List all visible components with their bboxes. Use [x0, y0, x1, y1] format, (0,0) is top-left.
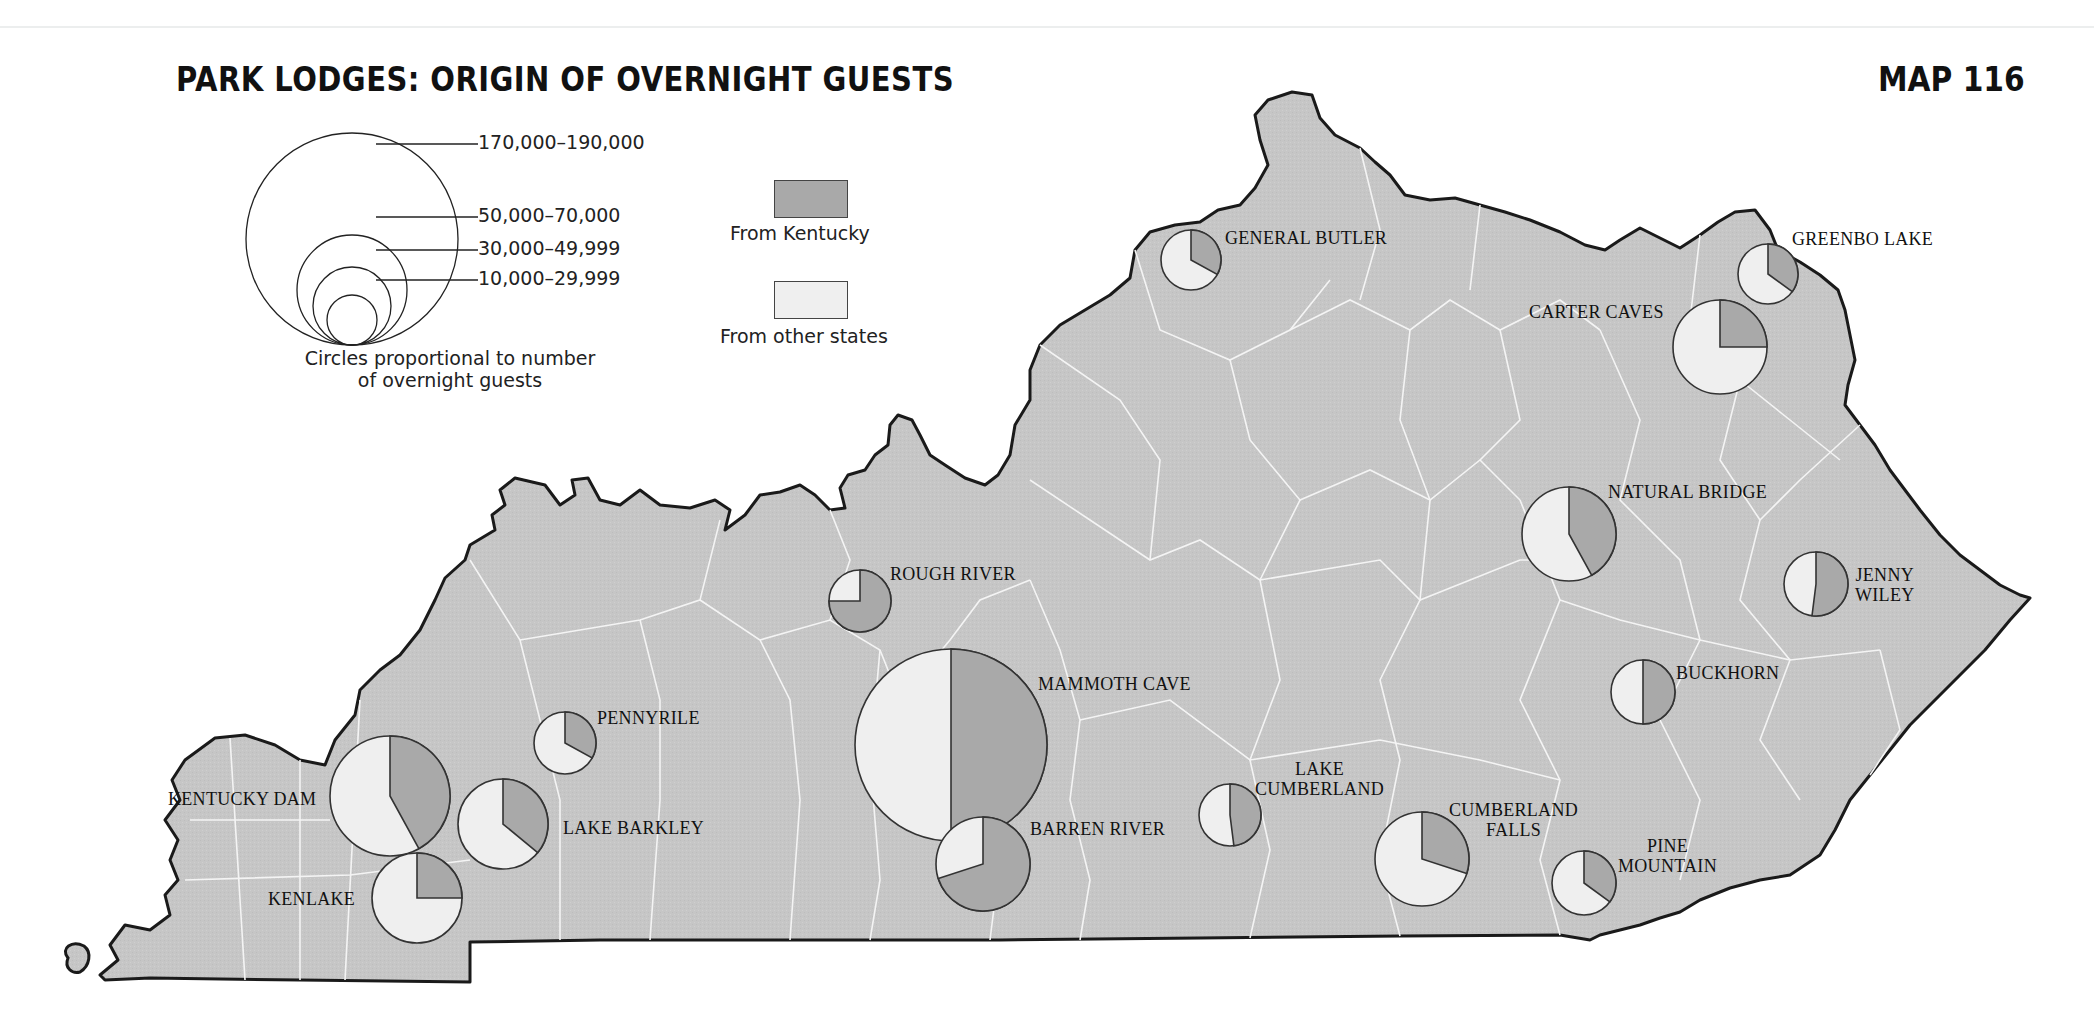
label-greenbo-lake: GREENBO LAKE [1792, 229, 1933, 249]
pie-mammoth-cave [855, 649, 1047, 841]
label-mammoth-cave: MAMMOTH CAVE [1038, 674, 1191, 694]
swatch-from-other-states [774, 281, 848, 319]
legend-caption: Circles proportional to number of overni… [280, 347, 620, 391]
label-cumberland-falls-line1: CUMBERLAND [1449, 800, 1578, 820]
label-jenny-wiley-line2: WILEY [1855, 585, 1914, 605]
label-buckhorn: BUCKHORN [1676, 663, 1779, 683]
pie-natural-bridge [1522, 487, 1616, 581]
pie-general-butler [1161, 230, 1221, 290]
pie-kentucky-dam [330, 736, 450, 856]
label-pine-mountain-line1: PINE [1618, 836, 1717, 856]
label-jenny-wiley-line1: JENNY [1855, 565, 1914, 585]
pie-lake-barkley [458, 779, 548, 869]
label-cumberland-falls: CUMBERLAND FALLS [1449, 800, 1578, 840]
pie-jenny-wiley [1784, 552, 1848, 616]
label-barren-river: BARREN RIVER [1030, 819, 1165, 839]
label-kenlake: KENLAKE [268, 889, 355, 909]
label-pine-mountain: PINE MOUNTAIN [1618, 836, 1717, 876]
pie-carter-caves [1673, 300, 1767, 394]
size-class-10k: 10,000–29,999 [478, 267, 620, 289]
pie-greenbo-lake [1738, 244, 1798, 304]
pie-rough-river [829, 570, 891, 632]
pie-buckhorn [1611, 660, 1675, 724]
label-general-butler: GENERAL BUTLER [1225, 228, 1387, 248]
label-pine-mountain-line2: MOUNTAIN [1618, 856, 1717, 876]
label-carter-caves: CARTER CAVES [1529, 302, 1664, 322]
size-legend-circles [246, 133, 478, 345]
pie-lake-cumberland [1199, 784, 1261, 846]
legend-from-other-states: From other states [720, 325, 888, 347]
label-lake-cumberland-line1: LAKE [1255, 759, 1384, 779]
label-lake-cumberland-line2: CUMBERLAND [1255, 779, 1384, 799]
swatch-from-kentucky [774, 180, 848, 218]
label-jenny-wiley: JENNY WILEY [1855, 565, 1914, 605]
label-cumberland-falls-line2: FALLS [1449, 820, 1578, 840]
label-kentucky-dam: KENTUCKY DAM [168, 789, 316, 809]
label-lake-cumberland: LAKE CUMBERLAND [1255, 759, 1384, 799]
legend-caption-line2: of overnight guests [280, 369, 620, 391]
kentucky-map [0, 0, 2094, 1030]
pie-pennyrile [534, 712, 596, 774]
label-lake-barkley: LAKE BARKLEY [563, 818, 704, 838]
legend-from-kentucky: From Kentucky [730, 222, 870, 244]
legend-caption-line1: Circles proportional to number [280, 347, 620, 369]
size-class-30k: 30,000–49,999 [478, 237, 620, 259]
label-pennyrile: PENNYRILE [597, 708, 700, 728]
size-class-50k: 50,000–70,000 [478, 204, 620, 226]
label-rough-river: ROUGH RIVER [890, 564, 1016, 584]
size-class-170k: 170,000–190,000 [478, 131, 645, 153]
label-natural-bridge: NATURAL BRIDGE [1608, 482, 1767, 502]
pie-barren-river [936, 817, 1030, 911]
pie-kenlake [372, 853, 462, 943]
pie-pine-mountain [1552, 851, 1616, 915]
